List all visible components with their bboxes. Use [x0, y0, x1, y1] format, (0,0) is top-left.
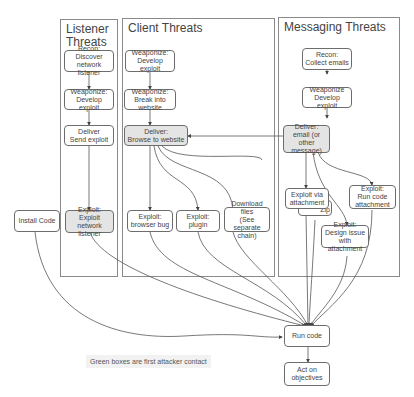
node-listener-weaponize: Weaponize: Develop exploit: [64, 89, 114, 110]
node-client-weaponize-break: Weaponize: Break into website: [124, 89, 176, 110]
node-client-download-files: Download files (See separate chain): [224, 207, 270, 232]
node-messaging-weaponize: Weaponize Develop exploit: [302, 87, 352, 108]
node-messaging-exploit-design: Exploit: Design issue with attachment: [321, 225, 369, 248]
node-messaging-deliver: Deliver: email (or other message): [283, 125, 330, 153]
node-act-on-objectives: Act on objectives: [284, 362, 330, 386]
legend-note: Green boxes are first attacker contact: [86, 355, 211, 368]
node-client-weaponize-develop: Weaponize: Develop exploit: [125, 50, 175, 72]
node-messaging-exploit-runcode: Exploit: Run code attachment: [349, 185, 396, 209]
node-listener-recon: Recon: Discover network listener: [64, 50, 114, 72]
node-listener-deliver: Deliver Send exploit: [64, 125, 114, 146]
node-install-code: Install Code: [14, 210, 60, 232]
node-client-exploit-browser: Exploit: browser bug: [127, 210, 173, 232]
node-client-exploit-plugin: Exploit: plugin: [176, 210, 220, 232]
node-messaging-exploit-attachment: Exploit via attachment: [285, 188, 329, 209]
node-messaging-recon: Recon: Collect emails: [302, 48, 352, 70]
node-run-code: Run code: [284, 325, 330, 347]
node-client-deliver: Deliver: Browse to website: [124, 125, 188, 146]
node-listener-exploit: Exploit: Exploit network listener: [65, 210, 114, 233]
